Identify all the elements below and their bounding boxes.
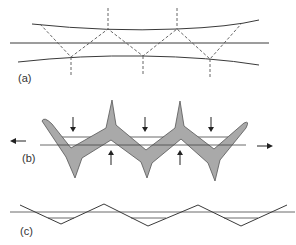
panel-b: (b)	[10, 100, 273, 181]
panel-a: (a)	[10, 8, 269, 84]
left-tension-arrow	[10, 138, 26, 144]
up-arrow-2	[177, 150, 183, 165]
dashed-zigzag-path	[40, 23, 242, 59]
down-arrow-2	[142, 117, 148, 132]
diagram-figure: (a)	[0, 0, 296, 245]
down-arrow-1	[70, 117, 76, 132]
up-arrow-1	[108, 150, 114, 165]
panel-b-label: (b)	[22, 152, 35, 164]
zigzag-body-shape	[42, 100, 248, 181]
zigzag-line	[20, 204, 287, 226]
right-tension-arrow	[257, 143, 273, 149]
panel-a-label: (a)	[18, 72, 31, 84]
lower-boundary-curve	[18, 56, 259, 65]
upper-boundary-curve	[32, 20, 259, 30]
down-arrow-3	[208, 117, 214, 132]
panel-c: (c)	[10, 204, 295, 237]
panel-c-label: (c)	[20, 225, 33, 237]
